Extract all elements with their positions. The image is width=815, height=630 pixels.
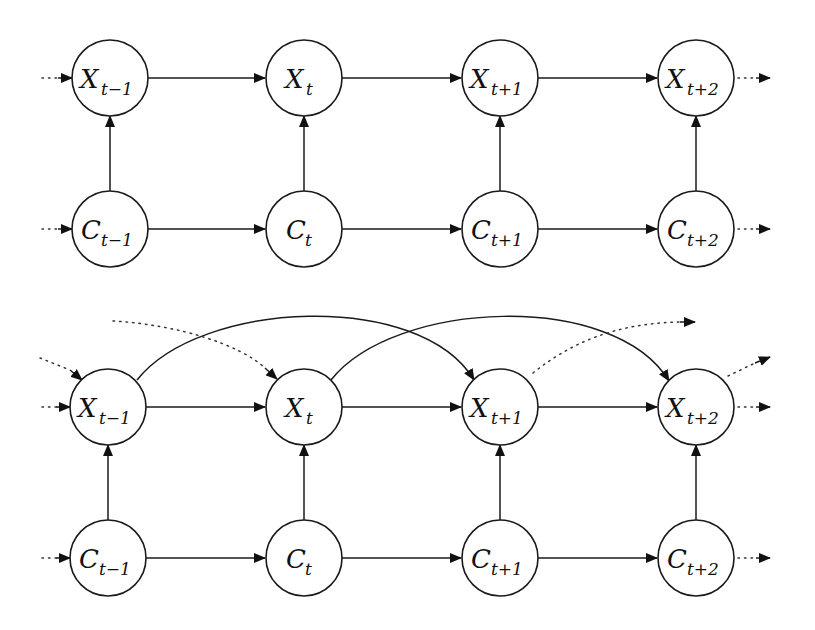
node-label-base: X [76, 393, 98, 423]
node-x-t+2: X t+2 [658, 40, 734, 116]
node-c-t: C t [266, 191, 342, 267]
node-label-base: X [283, 393, 305, 423]
arrow-out-diagonal-x-t+2 [755, 357, 770, 363]
node-c-t-1: C t−1 [70, 520, 146, 596]
node-label-base: C [471, 215, 491, 245]
node-label-base: C [471, 544, 491, 574]
bottom-diagram: X t−1 X t X t+1 X t+2 C t−1 C t [40, 316, 770, 596]
node-label-base: X [468, 393, 490, 423]
node-label-sub: t [305, 559, 312, 579]
node-x-t-1: X t−1 [70, 369, 146, 445]
node-label-base: X [468, 64, 490, 94]
diagram-canvas: X t−1 X t X t+1 X t+2 C t−1 C t [0, 0, 815, 630]
node-label-sub: t+2 [687, 79, 719, 99]
node-label-base: C [81, 215, 101, 245]
node-label-sub: t+1 [491, 559, 523, 579]
node-c-t+2: C t+2 [658, 520, 734, 596]
node-label-sub: t−1 [99, 559, 131, 579]
node-label-base: X [664, 393, 686, 423]
node-label-base: C [667, 215, 687, 245]
node-label-sub: t+1 [491, 408, 523, 428]
node-x-t+1: X t+1 [462, 369, 538, 445]
node-label-sub: t+2 [687, 559, 719, 579]
node-label-base: C [286, 215, 306, 245]
node-x-t+2: X t+2 [658, 369, 734, 445]
node-label-base: C [79, 544, 99, 574]
node-label-sub: t+1 [491, 79, 523, 99]
node-c-t+1: C t+1 [462, 191, 538, 267]
node-label-sub: t [305, 230, 312, 250]
node-x-t: X t [266, 369, 342, 445]
node-c-t+1: C t+1 [462, 520, 538, 596]
dotted-arc-in-x-t [113, 321, 265, 368]
dotted-in-diagonal-x-t-1 [40, 358, 70, 370]
node-label-sub: t−1 [101, 230, 133, 250]
node-c-t: C t [266, 520, 342, 596]
node-label-sub: t−1 [101, 79, 133, 99]
node-label-sub: t+2 [687, 230, 719, 250]
node-label-sub: t−1 [99, 408, 131, 428]
arrow-in-diagonal-x-t-1 [70, 370, 82, 380]
node-x-t+1: X t+1 [462, 40, 538, 116]
node-label-sub: t [306, 408, 313, 428]
node-c-t-1: C t−1 [72, 191, 148, 267]
node-x-t-1: X t−1 [72, 40, 148, 116]
node-label-sub: t+2 [687, 408, 719, 428]
node-label-base: X [283, 64, 305, 94]
top-diagram: X t−1 X t X t+1 X t+2 C t−1 C t [42, 40, 770, 267]
node-label-base: C [286, 544, 306, 574]
node-label-sub: t+1 [491, 230, 523, 250]
node-label-base: X [664, 64, 686, 94]
arrow-in-arc-x-t [265, 368, 277, 379]
node-c-t+2: C t+2 [658, 191, 734, 267]
node-x-t: X t [266, 40, 342, 116]
node-label-base: X [78, 64, 100, 94]
dotted-out-diagonal-x-t+2 [728, 363, 755, 376]
node-label-base: C [667, 544, 687, 574]
node-label-sub: t [306, 79, 313, 99]
